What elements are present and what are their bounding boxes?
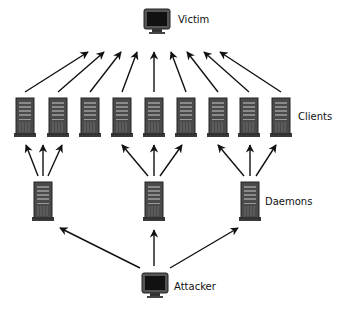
server-icon [111,98,133,137]
daemon-nodes [32,182,261,221]
server-icon [14,98,36,137]
server-icon [207,98,229,137]
victim-node [144,9,170,34]
server-icon [175,98,197,137]
ddos-diagram [0,0,337,311]
server-icon [32,182,54,221]
server-icon [143,98,165,137]
arrows [25,52,281,268]
server-icon [239,182,261,221]
victim-label: Victim [178,14,209,25]
server-icon [79,98,101,137]
clients-label: Clients [298,111,332,122]
attacker-node [142,273,168,298]
server-icon [47,98,69,137]
client-nodes [14,98,292,137]
monitor-icon [142,273,168,298]
daemons-label: Daemons [265,196,312,207]
server-icon [238,98,260,137]
server-icon [143,182,165,221]
monitor-icon [144,9,170,34]
attacker-label: Attacker [174,281,216,292]
server-icon [270,98,292,137]
